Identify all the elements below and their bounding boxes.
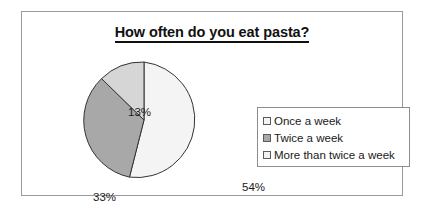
legend-label-more-than-twice-a-week: More than twice a week [274, 149, 395, 161]
pie-svg [62, 57, 227, 182]
chart-frame: How often do you eat pasta? 13% 33% 54% … [21, 11, 403, 196]
legend-swatch-once-a-week [263, 117, 271, 125]
pie-data-label-once-a-week: 54% [242, 181, 265, 193]
legend-item-more-than-twice-a-week[interactable]: More than twice a week [263, 146, 404, 163]
legend-swatch-twice-a-week [263, 134, 271, 142]
pie-chart: 13% 33% 54% [62, 57, 227, 182]
pie-data-label-more-than-twice-a-week: 13% [128, 106, 151, 118]
chart-title: How often do you eat pasta? [22, 24, 402, 40]
chart-title-text: How often do you eat pasta? [115, 24, 310, 43]
chart-legend: Once a week Twice a week More than twice… [257, 107, 410, 167]
legend-label-once-a-week: Once a week [274, 115, 341, 127]
chart-screenshot: How often do you eat pasta? 13% 33% 54% … [0, 0, 422, 208]
legend-swatch-more-than-twice-a-week [263, 151, 271, 159]
pie-data-label-twice-a-week: 33% [93, 191, 116, 203]
legend-item-once-a-week[interactable]: Once a week [263, 112, 404, 129]
legend-item-twice-a-week[interactable]: Twice a week [263, 129, 404, 146]
legend-label-twice-a-week: Twice a week [274, 132, 343, 144]
